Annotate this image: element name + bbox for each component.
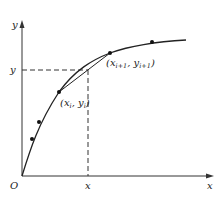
point-i-plus-1 bbox=[108, 51, 112, 55]
point bbox=[30, 137, 34, 141]
origin-label: O bbox=[10, 180, 18, 191]
data-points bbox=[30, 40, 154, 141]
x-axis-arrow-icon bbox=[206, 174, 214, 179]
diagram-canvas: y x O y x (xi, yi) (xi+1, yi+1) bbox=[0, 0, 224, 201]
x-marker-label: x bbox=[85, 180, 91, 191]
x-axis-label: x bbox=[207, 180, 213, 191]
y-axis-label: y bbox=[11, 19, 18, 30]
point bbox=[150, 40, 154, 44]
point-i-label: (xi, yi) bbox=[60, 97, 90, 110]
chord-segment bbox=[59, 53, 110, 92]
y-axis-arrow-icon bbox=[20, 20, 25, 28]
point bbox=[37, 120, 41, 124]
y-marker-label: y bbox=[9, 64, 16, 75]
point-i-plus-1-label: (xi+1, yi+1) bbox=[106, 57, 155, 70]
point-i bbox=[57, 90, 61, 94]
curve bbox=[22, 40, 186, 176]
